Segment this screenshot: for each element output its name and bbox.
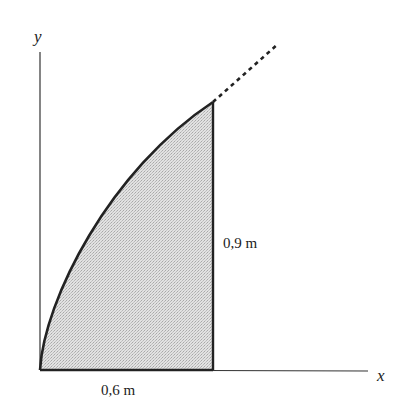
x-axis-label: x bbox=[376, 366, 385, 385]
y-axis-label: y bbox=[32, 27, 42, 46]
curve-extension-dashed bbox=[213, 44, 278, 102]
diagram-canvas: y x 0,9 m 0,6 m bbox=[0, 0, 414, 417]
shaded-area bbox=[40, 102, 213, 370]
width-dimension-label: 0,6 m bbox=[101, 382, 136, 398]
height-dimension-label: 0,9 m bbox=[223, 235, 258, 251]
